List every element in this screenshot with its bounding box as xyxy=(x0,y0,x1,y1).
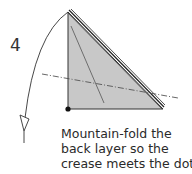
target-dot xyxy=(65,106,70,111)
step-number: 4 xyxy=(10,37,21,54)
mountain-fold-arrowhead-icon xyxy=(20,115,29,131)
instruction-caption: Mountain-fold the back layer so the crea… xyxy=(61,126,191,171)
caption-line-2: back layer so the xyxy=(61,141,191,156)
fold-arrow-curve xyxy=(25,12,68,118)
paper-triangle xyxy=(68,12,163,109)
caption-line-1: Mountain-fold the xyxy=(61,126,191,141)
caption-line-3: crease meets the dot. xyxy=(61,156,191,171)
